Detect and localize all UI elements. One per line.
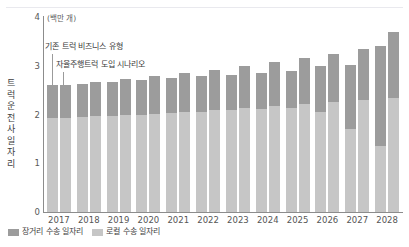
bar-segment-long-haul (328, 54, 339, 102)
bar-segment-local (375, 146, 386, 212)
annotation-leader-line-1 (52, 54, 53, 85)
y-tick-label: 4 (10, 13, 40, 22)
bar-segment-long-haul (315, 66, 326, 112)
bar-2018-baseline (90, 82, 101, 212)
bar-2020-scenario (136, 80, 147, 212)
bar-segment-local (149, 114, 160, 212)
bar-segment-local (77, 117, 88, 212)
x-tick-label-2028: 2028 (376, 215, 398, 225)
annotation-leader-line-2 (63, 72, 64, 85)
bar-2020-baseline (149, 76, 160, 212)
bar-segment-local (120, 115, 131, 212)
legend-label: 장거리 수송 일자리 (22, 228, 83, 236)
bar-2028-scenario (375, 46, 386, 212)
x-tick-label-2027: 2027 (346, 215, 368, 225)
bar-2027-scenario (345, 65, 356, 212)
bar-segment-local (107, 116, 118, 212)
bar-segment-local (358, 100, 369, 212)
bar-segment-long-haul (179, 73, 190, 112)
bar-2023-baseline (239, 66, 250, 212)
bar-2019-baseline (120, 79, 131, 212)
x-tick-label-2019: 2019 (108, 215, 130, 225)
bar-segment-local (345, 129, 356, 212)
bar-2026-scenario (315, 66, 326, 212)
x-tick-label-2023: 2023 (227, 215, 249, 225)
bar-segment-local (47, 118, 58, 212)
chart-figure: 트럭 운전사 일자리 (백만 개) 01234 기존 트럭 비즈니스 유형 자율… (0, 0, 409, 247)
x-tick-label-2018: 2018 (78, 215, 100, 225)
y-tick-label: 1 (10, 159, 40, 168)
bar-2023-scenario (226, 75, 237, 212)
bar-2017-scenario (47, 85, 58, 212)
bar-2028-baseline (388, 32, 399, 212)
legend-label: 로컬 수송 일자리 (106, 228, 160, 236)
legend-swatch-icon (8, 229, 19, 236)
x-tick-label-2022: 2022 (197, 215, 219, 225)
bar-segment-local (226, 110, 237, 212)
bar-segment-long-haul (60, 85, 71, 118)
bar-segment-local (256, 109, 267, 212)
bar-segment-long-haul (136, 80, 147, 114)
x-tick-label-2025: 2025 (287, 215, 309, 225)
bar-2018-scenario (77, 84, 88, 212)
bar-segment-local (299, 104, 310, 212)
bar-segment-long-haul (239, 66, 250, 108)
bar-segment-local (239, 108, 250, 212)
bar-2025-baseline (299, 58, 310, 212)
bar-segment-local (60, 118, 71, 212)
y-tick-label: 2 (10, 110, 40, 119)
bar-2025-scenario (286, 71, 297, 212)
bar-segment-long-haul (77, 84, 88, 117)
x-tick-label-2020: 2020 (138, 215, 160, 225)
annotation-scenario-label: 자율주행트럭 도입 시나리오 (56, 61, 145, 69)
bar-segment-long-haul (209, 70, 220, 110)
bar-segment-local (286, 108, 297, 212)
bar-segment-long-haul (388, 32, 399, 98)
bar-segment-long-haul (107, 82, 118, 116)
bar-segment-local (90, 116, 101, 212)
bar-2026-baseline (328, 54, 339, 212)
bar-segment-local (269, 106, 280, 212)
bar-2024-baseline (269, 62, 280, 212)
x-axis-line (43, 212, 403, 213)
bar-segment-local (315, 112, 326, 212)
x-tick-label-2021: 2021 (167, 215, 189, 225)
bar-2022-scenario (196, 76, 207, 212)
chart-legend: 장거리 수송 일자리로컬 수송 일자리 (8, 228, 160, 236)
bar-segment-long-haul (149, 76, 160, 113)
legend-item-0[interactable]: 장거리 수송 일자리 (8, 228, 83, 236)
bar-2022-baseline (209, 70, 220, 212)
bar-segment-long-haul (226, 75, 237, 111)
x-tick-label-2024: 2024 (257, 215, 279, 225)
bar-segment-local (179, 112, 190, 212)
bar-segment-long-haul (286, 71, 297, 108)
x-axis-labels: 2017201820192020202120222023202420252026… (44, 215, 402, 229)
x-tick-label-2026: 2026 (317, 215, 339, 225)
y-tick-label: 0 (10, 208, 40, 217)
bar-segment-local (388, 98, 399, 212)
bar-2021-scenario (166, 78, 177, 212)
bar-segment-long-haul (345, 65, 356, 129)
bar-2021-baseline (179, 73, 190, 212)
bar-segment-long-haul (166, 78, 177, 113)
bar-segment-local (166, 113, 177, 212)
bar-segment-local (328, 102, 339, 212)
bar-segment-long-haul (47, 85, 58, 118)
bar-segment-local (136, 115, 147, 213)
top-divider (6, 7, 403, 8)
annotation-baseline-label: 기존 트럭 비즈니스 유형 (45, 43, 123, 51)
bar-2027-baseline (358, 49, 369, 212)
bar-segment-local (209, 110, 220, 212)
bar-segment-local (196, 112, 207, 212)
bar-2017-baseline (60, 85, 71, 212)
bar-segment-long-haul (90, 82, 101, 116)
x-tick-label-2017: 2017 (48, 215, 70, 225)
legend-item-1[interactable]: 로컬 수송 일자리 (92, 228, 160, 236)
y-tick-label: 3 (10, 62, 40, 71)
bar-2019-scenario (107, 82, 118, 212)
y-axis-ticks: 01234 (6, 17, 40, 212)
bar-2024-scenario (256, 73, 267, 212)
legend-swatch-icon (92, 229, 103, 236)
bar-segment-long-haul (196, 76, 207, 111)
bar-segment-long-haul (269, 62, 280, 106)
